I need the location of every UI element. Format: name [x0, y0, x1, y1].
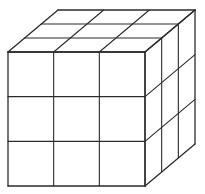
- top-face: [8, 10, 195, 52]
- cube-diagram: 3x3x3 cube made of unit cubes: [0, 0, 205, 194]
- right-depth-line: [145, 10, 195, 52]
- right-depth-line: [145, 99, 195, 141]
- front-face: [8, 52, 145, 186]
- right-depth-line: [145, 144, 195, 186]
- cube-drawing: [0, 0, 205, 194]
- right-depth-line: [145, 55, 195, 97]
- top-depth-line: [8, 10, 58, 52]
- right-face: [145, 10, 195, 186]
- top-depth-line: [99, 10, 149, 52]
- top-depth-line: [54, 10, 104, 52]
